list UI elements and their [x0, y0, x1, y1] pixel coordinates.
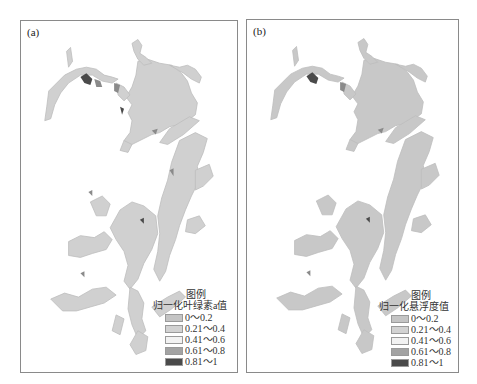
lake-region [356, 330, 374, 354]
lake-region [293, 46, 299, 66]
map-legend: 图例 归一化叶绿素a值 0～0.2 0.21～0.4 0.41～0.6 0.61… [161, 289, 227, 367]
legend-swatch [391, 359, 409, 367]
lake-region [154, 133, 208, 282]
legend-title: 图例 [161, 289, 227, 300]
lake-region [128, 287, 146, 339]
legend-swatch [165, 358, 183, 366]
lake-region [338, 314, 350, 334]
lake-region [51, 287, 116, 311]
lake-region [195, 164, 213, 190]
legend-swatch [165, 325, 183, 333]
lake-region [67, 47, 73, 67]
legend-item: 0.41～0.6 [165, 334, 227, 345]
legend-swatch [165, 314, 183, 322]
legend-label: 0.81～1 [411, 357, 444, 368]
lake-region [130, 331, 148, 355]
legend-swatch [391, 326, 409, 334]
lake-region [358, 38, 378, 64]
legend-item: 0.81～1 [165, 356, 227, 367]
legend-swatch [391, 348, 409, 356]
lake-region [380, 132, 433, 281]
legend-label: 0.61～0.8 [411, 346, 451, 357]
lake-region [271, 66, 344, 119]
legend-label: 0.61～0.8 [185, 345, 225, 356]
lake-region [316, 195, 336, 215]
lake-region [295, 231, 339, 257]
lake-region [354, 286, 372, 338]
high-value-patch [80, 271, 84, 277]
high-value-patch [306, 270, 310, 276]
map-legend: 图例 归一化悬浮度值 0～0.2 0.21～0.4 0.41～0.6 0.61～… [387, 290, 451, 368]
lake-region [336, 201, 384, 288]
lake-region [132, 39, 152, 65]
lake-region [185, 216, 205, 234]
lake-region [277, 286, 342, 310]
legend-item: 0～0.2 [391, 313, 451, 324]
legend-label: 0.21～0.4 [411, 324, 451, 335]
legend-swatch [391, 315, 409, 323]
legend-swatch [165, 336, 183, 344]
high-value-patch [88, 190, 92, 196]
legend-label: 0～0.2 [185, 312, 213, 323]
legend-title: 图例 [387, 290, 451, 301]
lake-region [112, 315, 124, 335]
legend-label: 0.81～1 [185, 356, 218, 367]
legend-item: 0.81～1 [391, 357, 451, 368]
legend-swatch [391, 337, 409, 345]
legend-label: 0.21～0.4 [185, 323, 225, 334]
legend-item: 0.41～0.6 [391, 335, 451, 346]
legend-item: 0～0.2 [165, 312, 227, 323]
legend-item: 0.21～0.4 [391, 324, 451, 335]
legend-label: 0～0.2 [411, 313, 439, 324]
legend-item: 0.61～0.8 [165, 345, 227, 356]
lake-region [90, 196, 110, 216]
legend-label: 0.41～0.6 [411, 335, 451, 346]
high-value-patch [120, 107, 124, 115]
legend-swatch [165, 347, 183, 355]
map-panel-suspended-matter: (b) 图例 归一化悬浮度值 0～0.2 0.21～0.4 0.41～0.6 0… [246, 19, 459, 373]
lake-region [69, 232, 113, 258]
legend-subtitle: 归一化悬浮度值 [379, 301, 451, 312]
lake-region [421, 163, 439, 189]
legend-item: 0.21～0.4 [165, 323, 227, 334]
map-panel-chlorophyll: (a) 图例 归一化叶绿素a值 0～0.2 0.21～0.4 0.41～0.6 … [20, 20, 238, 373]
lake-region [45, 67, 118, 121]
legend-label: 0.41～0.6 [185, 334, 225, 345]
legend-item: 0.61～0.8 [391, 346, 451, 357]
lake-region [411, 215, 431, 233]
legend-subtitle: 归一化叶绿素a值 [153, 300, 227, 311]
lake-region [110, 202, 158, 289]
